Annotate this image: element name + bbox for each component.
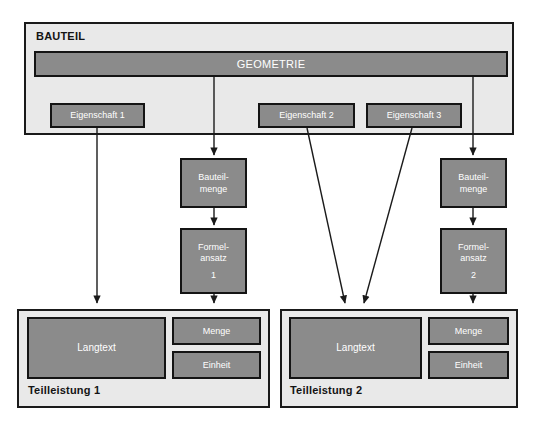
formelansatz-right-label-stack: Formel- ansatz 2 bbox=[458, 242, 489, 279]
eigenschaft-2-label: Eigenschaft 2 bbox=[279, 110, 334, 120]
diagram-canvas: BAUTEIL GEOMETRIE Eigenschaft 1 Eigensch… bbox=[0, 0, 538, 427]
bauteilmenge-left-line2: menge bbox=[200, 184, 228, 194]
teilleistung-1-title: Teilleistung 1 bbox=[28, 384, 100, 396]
formelansatz-left-label-stack: Formel- ansatz 1 bbox=[198, 242, 229, 279]
formelansatz-left-line2: ansatz bbox=[200, 253, 227, 263]
eigenschaft-1-label: Eigenschaft 1 bbox=[70, 110, 125, 120]
eigenschaft-2-box[interactable]: Eigenschaft 2 bbox=[258, 103, 355, 128]
menge-1-label: Menge bbox=[203, 326, 231, 336]
bauteilmenge-box-left[interactable]: Bauteil- menge bbox=[180, 158, 247, 208]
formelansatz-box-left[interactable]: Formel- ansatz 1 bbox=[180, 228, 247, 294]
menge-box-1[interactable]: Menge bbox=[172, 317, 261, 345]
bauteilmenge-right-line1: Bauteil- bbox=[458, 172, 489, 182]
geometrie-box[interactable]: GEOMETRIE bbox=[34, 51, 508, 77]
formelansatz-right-line1: Formel- bbox=[458, 242, 489, 252]
geometrie-label: GEOMETRIE bbox=[237, 58, 306, 70]
eigenschaft-1-box[interactable]: Eigenschaft 1 bbox=[50, 103, 145, 128]
bauteilmenge-right-line2: menge bbox=[460, 184, 488, 194]
formelansatz-right-line2: ansatz bbox=[460, 253, 487, 263]
menge-box-2[interactable]: Menge bbox=[428, 317, 509, 345]
langtext-box-1[interactable]: Langtext bbox=[27, 317, 166, 379]
langtext-box-2[interactable]: Langtext bbox=[289, 317, 422, 379]
bauteil-title: BAUTEIL bbox=[36, 30, 85, 42]
teilleistung-2-title: Teilleistung 2 bbox=[290, 384, 362, 396]
bauteilmenge-left-line1: Bauteil- bbox=[198, 172, 229, 182]
bauteilmenge-right-label-stack: Bauteil- menge bbox=[458, 172, 489, 193]
bauteilmenge-box-right[interactable]: Bauteil- menge bbox=[440, 158, 507, 208]
einheit-box-1[interactable]: Einheit bbox=[172, 351, 261, 379]
eigenschaft-3-label: Eigenschaft 3 bbox=[387, 110, 442, 120]
formelansatz-right-number: 2 bbox=[471, 270, 476, 280]
formelansatz-left-line1: Formel- bbox=[198, 242, 229, 252]
menge-2-label: Menge bbox=[455, 326, 483, 336]
langtext-1-label: Langtext bbox=[77, 342, 115, 353]
einheit-box-2[interactable]: Einheit bbox=[428, 351, 509, 379]
einheit-1-label: Einheit bbox=[203, 360, 231, 370]
bauteilmenge-left-label-stack: Bauteil- menge bbox=[198, 172, 229, 193]
langtext-2-label: Langtext bbox=[336, 342, 374, 353]
formelansatz-left-number: 1 bbox=[211, 270, 216, 280]
eigenschaft-3-box[interactable]: Eigenschaft 3 bbox=[366, 103, 462, 128]
formelansatz-box-right[interactable]: Formel- ansatz 2 bbox=[440, 228, 507, 294]
einheit-2-label: Einheit bbox=[455, 360, 483, 370]
connector-eigenschaft3-to-teilleistung2 bbox=[364, 128, 412, 303]
connector-eigenschaft2-to-teilleistung2 bbox=[307, 128, 345, 303]
